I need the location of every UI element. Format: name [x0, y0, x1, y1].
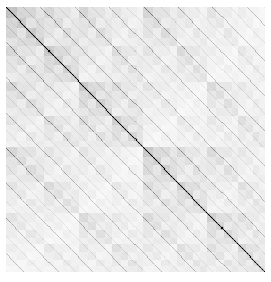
matrix-spy-plot — [6, 7, 265, 272]
figure-root — [0, 0, 271, 282]
